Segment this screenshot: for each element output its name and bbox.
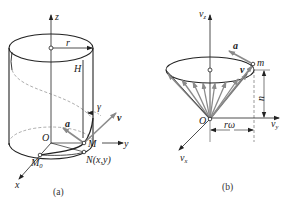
point-m (82, 141, 86, 145)
vz-axis-label: vz (199, 8, 206, 20)
acceleration-vector-a (63, 128, 84, 143)
point-m-label-b: m (257, 57, 264, 68)
z-axis-label: z (54, 11, 59, 22)
r-omega-label: rω (224, 119, 235, 130)
y-axis-label: y (123, 138, 129, 149)
top-center-point (49, 46, 53, 50)
radius-label: r (66, 37, 70, 48)
origin-label-a: O (42, 132, 49, 143)
diagram-canvas: z r H γ v a O M y N(x,y) M0 x (a) (0, 0, 285, 204)
vy-axis-label: vy (271, 118, 278, 130)
velocity-label-b: v (240, 64, 245, 75)
x-axis-label: x (14, 179, 20, 190)
caption-b: (b) (222, 182, 233, 193)
velocity-vector-b (210, 66, 252, 119)
ellipse-center-point (208, 68, 212, 72)
acceleration-label-b: a (233, 40, 238, 51)
u-label: u (257, 96, 268, 101)
point-m-label: M (87, 138, 97, 149)
figure-a-cylinder: z r H γ v a O M y N(x,y) M0 x (a) (9, 11, 129, 198)
vx-axis-label: vx (180, 152, 187, 164)
gamma-arc (87, 111, 101, 116)
helix-front-top (11, 52, 12, 70)
acceleration-vector-b (229, 51, 251, 63)
acceleration-label-a: a (65, 118, 70, 129)
origin-label-b: O (199, 115, 206, 126)
velocity-label-a: v (117, 112, 122, 123)
cone-left-edge (166, 70, 210, 119)
gamma-label: γ (97, 101, 102, 112)
height-label: H (73, 63, 82, 74)
point-n-label: N(x,y) (85, 154, 111, 166)
origin-point-b (208, 117, 212, 121)
helix-back-dashed (12, 70, 92, 118)
caption-a: (a) (53, 187, 64, 198)
figure-b-hodograph-cone: vz a m v u O vy rω vx (b) (166, 8, 279, 193)
point-m-b (251, 62, 255, 66)
